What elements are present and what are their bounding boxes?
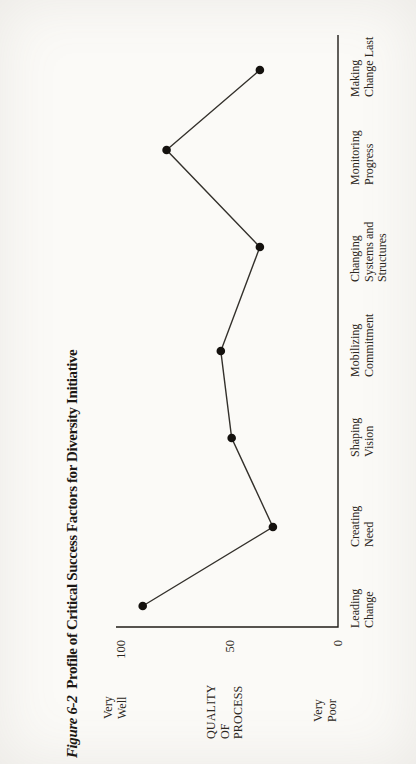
scanned-book-page: Figure 6-2Profile of Critical Success Fa…	[0, 0, 416, 764]
category-label: Monitoring Progress	[349, 95, 376, 185]
category-label: Shaping Vision	[349, 367, 376, 457]
category-label: Creating Need	[349, 457, 376, 547]
figure-canvas: Figure 6-2Profile of Critical Success Fa…	[0, 0, 416, 764]
category-labels: Leading ChangeCreating NeedShaping Visio…	[0, 0, 416, 764]
category-label: Mobilizing Commitment	[349, 287, 376, 377]
category-label: Making Change Last	[349, 7, 376, 97]
category-label: Leading Change	[349, 538, 376, 628]
category-label: Changing Systems and Structures	[349, 192, 390, 282]
